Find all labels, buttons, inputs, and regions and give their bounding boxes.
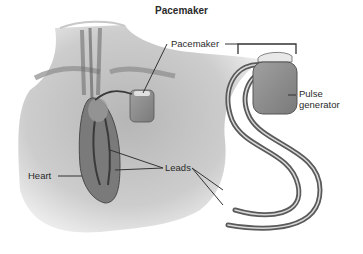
pacemaker-label: Pacemaker xyxy=(171,38,219,49)
pulse-generator-illustration xyxy=(253,52,297,114)
torso-shape xyxy=(18,22,262,233)
pulse-generator-label-line2: generator xyxy=(299,99,340,110)
pulse-generator-label-line1: Pulse xyxy=(299,88,323,99)
bracket-line xyxy=(238,44,296,54)
heart-label: Heart xyxy=(28,170,51,181)
leads-label: Leads xyxy=(165,162,191,173)
